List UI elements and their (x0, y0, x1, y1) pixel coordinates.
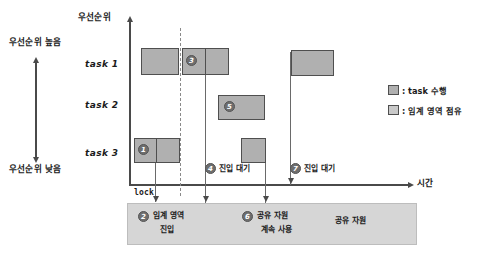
x-axis-arrow-icon (408, 182, 414, 188)
y-axis-title: 우선순위 (78, 13, 111, 23)
legend-label-exec: : task 수행 (402, 84, 447, 96)
legend-label-crit: : 임계 영역 점유 (402, 104, 462, 116)
task-label-3: task 3 (85, 148, 119, 158)
step-marker-4: 4 (205, 163, 216, 174)
step-marker-7: 7 (290, 163, 301, 174)
drop-arrow-task3-resume-icon (263, 196, 269, 202)
y-axis-line (129, 21, 131, 185)
annotation-entry-wait-1: 진입 대기 (219, 165, 250, 174)
box-item3-label: 공유 자원 (335, 217, 366, 226)
bar-task1-split (205, 49, 206, 74)
annotation-entry-wait-2: 진입 대기 (304, 165, 335, 174)
x-axis-line (129, 184, 409, 186)
lock-label: lock (134, 188, 154, 197)
drop-arrow-task1-preempt-icon (203, 196, 209, 202)
box-item1-line2: 진입 (160, 226, 174, 235)
priority-low-label: 우선순위 낮음 (9, 165, 61, 175)
priority-high-label: 우선순위 높음 (9, 38, 61, 48)
legend-row-exec: : task 수행 (388, 84, 447, 96)
bar-task3-split (156, 139, 157, 162)
legend-swatch-exec-icon (388, 85, 399, 95)
bar-task3-exec-2 (241, 138, 266, 163)
box-item1-line1: 임계 영역 (153, 212, 184, 221)
legend-row-crit: : 임계 영역 점유 (388, 104, 462, 116)
step-marker-3: 3 (186, 55, 197, 66)
bar-task1-exec-1 (141, 48, 179, 75)
priority-axis-line (35, 62, 37, 158)
x-axis-title: 시간 (417, 179, 433, 189)
task-label-2: task 2 (85, 100, 119, 110)
legend-swatch-crit-icon (388, 105, 399, 115)
task-label-1: task 1 (85, 59, 119, 69)
step-marker-5: 5 (224, 101, 235, 112)
shared-resource-box: 2 임계 영역 진입 6 공유 자원 계속 사용 공유 자원 (127, 203, 417, 245)
step-marker-1: 1 (138, 144, 149, 155)
box-item2-line2: 계속 사용 (261, 226, 292, 235)
step-marker-6: 6 (242, 211, 253, 222)
drop-arrow-task1-resume-icon (288, 178, 294, 184)
step-marker-2: 2 (138, 211, 149, 222)
diagram-canvas: 우선순위 높음 우선순위 낮음 우선순위 시간 task 1 task 2 ta… (0, 0, 481, 268)
box-item2-line1: 공유 자원 (257, 212, 288, 221)
bar-task1-exec-3 (291, 50, 334, 76)
guide-line-dashed-lock (180, 28, 181, 196)
priority-arrow-down-icon (33, 157, 39, 163)
